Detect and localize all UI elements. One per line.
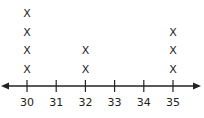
x-mark-30-4: X	[23, 7, 31, 20]
tick-label-31: 31	[49, 96, 63, 109]
x-mark-32-2: X	[82, 44, 90, 57]
x-mark-30-2: X	[23, 44, 31, 57]
line-plot: 303132333435 XXXXXXXXX	[0, 0, 204, 118]
x-mark-32-1: X	[82, 63, 90, 76]
tick-label-35: 35	[166, 96, 180, 109]
left-arrow-icon	[1, 83, 9, 90]
x-mark-35-1: X	[169, 63, 177, 76]
x-mark-35-2: X	[169, 44, 177, 57]
tick-label-33: 33	[108, 96, 122, 109]
tick-label-32: 32	[78, 96, 92, 109]
x-mark-35-3: X	[169, 26, 177, 39]
tick-label-34: 34	[137, 96, 151, 109]
tick-label-30: 30	[20, 96, 34, 109]
right-arrow-icon	[193, 83, 201, 90]
x-mark-30-3: X	[23, 26, 31, 39]
x-mark-30-1: X	[23, 63, 31, 76]
number-line	[1, 83, 201, 90]
